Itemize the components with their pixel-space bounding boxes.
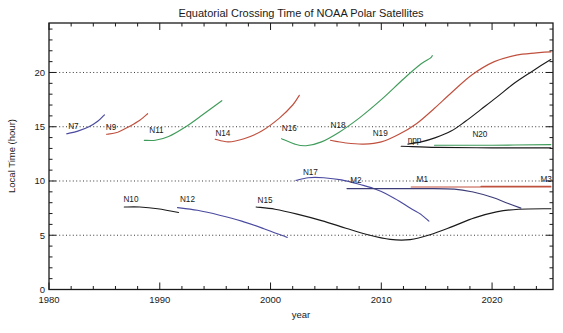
x-tick-label: 2000	[260, 294, 281, 305]
label-n14: N14	[215, 129, 230, 138]
label-npp: npp	[408, 136, 422, 145]
label-n10: N10	[123, 195, 138, 204]
series-n18-n19	[330, 52, 550, 144]
x-tick-label: 2010	[371, 294, 392, 305]
x-axis-label: year	[292, 309, 310, 320]
label-n20: N20	[472, 130, 487, 139]
x-tick-label: 1980	[38, 294, 59, 305]
satellite-labels: N7N9N11N14N16N18N19nppN20N10N12N15N17M2M…	[68, 121, 552, 205]
chart-canvas: Equatorial Crossing Time of NOAA Polar S…	[0, 0, 563, 333]
series-npp	[401, 146, 551, 148]
gridlines	[49, 72, 553, 235]
plot-frame	[49, 23, 553, 290]
label-m2: M2	[350, 176, 362, 185]
label-n18: N18	[331, 121, 346, 130]
label-n16: N16	[282, 124, 297, 133]
label-n15: N15	[257, 196, 272, 205]
label-m1: M1	[417, 175, 429, 184]
x-tick-label: 2020	[482, 294, 503, 305]
chart-figure: Equatorial Crossing Time of NOAA Polar S…	[0, 0, 563, 333]
series-n17	[296, 177, 429, 221]
label-n7: N7	[68, 122, 79, 131]
axes-frame	[49, 23, 553, 290]
label-n11: N11	[149, 126, 164, 135]
series-n10	[124, 207, 178, 213]
x-tick-label: 1990	[149, 294, 170, 305]
data-series	[67, 52, 551, 240]
tick-labels: 1980199020002010202005101520	[34, 67, 502, 305]
label-m3: M3	[541, 175, 553, 184]
series-n20	[435, 145, 551, 146]
chart-title: Equatorial Crossing Time of NOAA Polar S…	[178, 7, 424, 19]
y-tick-label: 20	[34, 67, 45, 78]
y-tick-label: 5	[40, 230, 45, 241]
label-n17: N17	[303, 168, 318, 177]
series-n12	[178, 208, 288, 238]
series-n16	[282, 56, 433, 146]
label-n12: N12	[180, 195, 195, 204]
axis-ticks	[49, 23, 553, 290]
y-tick-label: 10	[34, 175, 45, 186]
label-n19: N19	[373, 129, 388, 138]
label-n9: N9	[106, 123, 117, 132]
y-tick-label: 15	[34, 121, 45, 132]
series-m2	[347, 189, 521, 209]
y-tick-label: 0	[40, 284, 45, 295]
y-axis-label: Local Time (hour)	[6, 119, 17, 193]
